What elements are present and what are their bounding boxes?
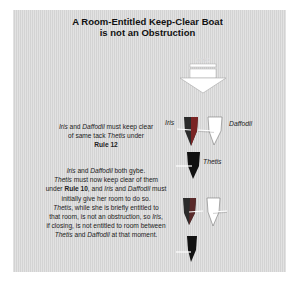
wind-label: WIND: [196, 57, 211, 63]
boat-iris-2: [183, 198, 203, 225]
text-line: Thetis must now keep clear of them: [36, 175, 176, 184]
boat-thetis-1: [176, 152, 200, 179]
label-daffodil: Daffodil: [229, 120, 252, 127]
boat-thetis-2: [176, 236, 197, 262]
text-block-rule-12: Iris and Daffodil must keep clearof same…: [46, 122, 166, 150]
text-line: Rule 12: [46, 140, 166, 149]
text-line: if closing, is not entitled to room betw…: [36, 221, 176, 230]
text-line: Iris and Daffodil must keep clear: [46, 122, 166, 131]
text-line: under Rule 10, and Iris and Daffodil mus…: [36, 184, 176, 193]
boat-iris-1: [177, 117, 198, 146]
boat-daffodil-2: [207, 198, 227, 226]
text-line: Thetis, while she is briefly entitled to: [36, 203, 176, 212]
label-iris: Iris: [165, 119, 174, 126]
text-line: Iris and Daffodil both gybe.: [36, 166, 176, 175]
text-line: that room, is not an obstruction, so Iri…: [36, 212, 176, 221]
text-line: initially give her room to do so.: [36, 194, 176, 203]
label-thetis: Thetis: [203, 158, 222, 165]
text-line: Thetis and Daffodil at that moment.: [36, 230, 176, 239]
boat-daffodil-1: [198, 117, 222, 145]
wind-arrow-icon: WIND: [180, 57, 226, 93]
text-line: of same tack Thetis under: [46, 131, 166, 140]
text-block-rule-10: Iris and Daffodil both gybe.Thetis must …: [36, 166, 176, 240]
